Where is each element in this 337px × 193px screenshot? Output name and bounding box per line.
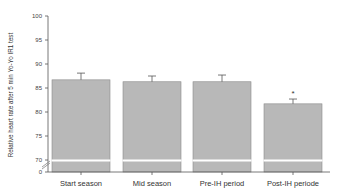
y-tick-label: 100 (32, 13, 43, 19)
x-axis: Start seasonMid seasonPre-IH periodPost-… (48, 172, 330, 188)
x-category-label: Pre-IH period (200, 179, 245, 188)
axis-break-stripe (52, 160, 111, 162)
y-tick-label: 80 (35, 109, 42, 115)
axis-break-stripe (193, 160, 252, 162)
x-category-label: Post-IH periode (267, 179, 319, 188)
bar-chart: Relative heart rate after 5 min Yo-Yo IR… (0, 0, 337, 193)
bar: * (264, 89, 323, 172)
y-tick-label: 95 (35, 37, 42, 43)
y-axis-title: Relative heart rate after 5 min Yo-Yo IR… (7, 33, 14, 158)
bars: * (52, 73, 323, 172)
bar (193, 75, 252, 172)
y-tick-label: 85 (35, 85, 42, 91)
y-axis-label: Relative heart rate after 5 min Yo-Yo IR… (7, 33, 14, 158)
axis-break-stripe (123, 160, 182, 162)
y-tick-label: 0 (39, 169, 43, 175)
y-tick-label: 75 (35, 133, 42, 139)
significance-marker: * (291, 89, 294, 98)
x-category-label: Mid season (133, 179, 171, 188)
axis-break-stripe (264, 160, 323, 162)
bar (52, 73, 111, 172)
y-tick-label: 90 (35, 61, 42, 67)
x-category-label: Start season (60, 179, 102, 188)
y-axis: 0707580859095100 (32, 13, 50, 175)
y-tick-label: 70 (35, 157, 42, 163)
bar (123, 76, 182, 172)
